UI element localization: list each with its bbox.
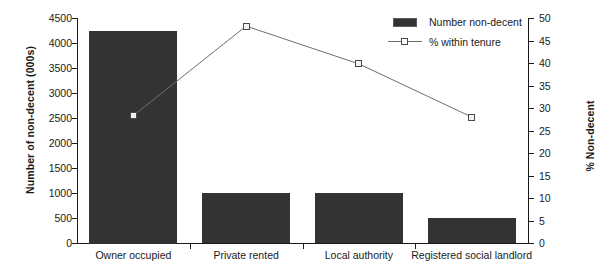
legend-item-percent-within-tenure: % within tenure [388, 34, 522, 50]
chart-container: Number of non-decent (000s) % Non-decent… [0, 0, 616, 272]
x-axis-label: Registered social landlord [397, 250, 547, 261]
data-point-marker [468, 114, 475, 121]
chart-legend: Number non-decent % within tenure [388, 14, 522, 54]
legend-item-number-non-decent: Number non-decent [388, 14, 522, 30]
legend-label: % within tenure [429, 37, 501, 48]
data-point-marker [243, 23, 250, 30]
legend-label: Number non-decent [429, 17, 522, 28]
filled-square-icon [388, 15, 422, 29]
data-point-marker [130, 112, 137, 119]
data-point-marker [355, 60, 362, 67]
line-open-square-icon [388, 35, 422, 49]
line-series [0, 0, 616, 272]
